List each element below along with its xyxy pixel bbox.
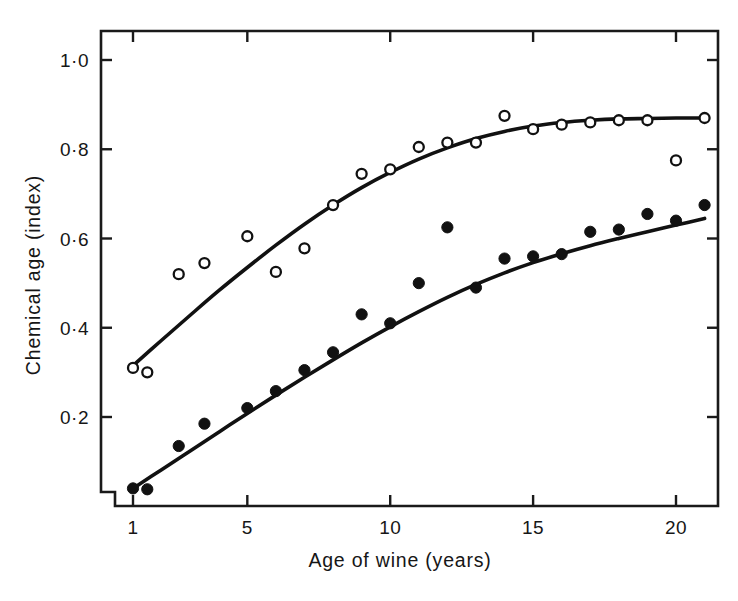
data-point-open [528,124,538,134]
y-tick-labels: 0·20·40·60·81·0 [60,50,89,428]
data-point-filled [613,224,624,235]
data-point-open [700,113,710,123]
x-tick-label: 1 [127,517,138,538]
data-point-filled [270,386,281,397]
data-point-filled [356,309,367,320]
data-point-open [614,115,624,125]
x-axis-title: Age of wine (years) [308,549,491,571]
data-point-open [642,115,652,125]
data-point-filled [199,418,210,429]
x-tick-labels: 15101520 [127,517,687,538]
data-point-filled [585,226,596,237]
x-tick-label: 10 [379,517,401,538]
x-tick-label: 20 [665,517,687,538]
data-point-filled [173,440,184,451]
data-point-open [199,258,209,268]
data-point-open [557,120,567,130]
data-point-filled [442,222,453,233]
data-point-filled [385,318,396,329]
data-point-filled [242,402,253,413]
data-point-filled [470,282,481,293]
data-point-open [357,169,367,179]
x-tick-label: 5 [242,517,253,538]
data-point-filled [413,278,424,289]
data-point-filled [499,253,510,264]
data-point-filled [642,208,653,219]
data-point-open [174,269,184,279]
y-tick-label: 1·0 [60,50,89,71]
y-axis-title: Chemical age (index) [22,175,44,375]
data-point-open [128,363,138,373]
y-tick-label: 0·4 [60,318,89,339]
data-point-filled [699,199,710,210]
data-point-filled [127,483,138,494]
fit-curves [133,118,705,488]
y-tick-label: 0·2 [60,407,89,428]
data-point-open [671,155,681,165]
data-point-filled [528,251,539,262]
plot-frame [101,31,718,506]
data-point-open [471,138,481,148]
data-point-filled [142,484,153,495]
y-tick-label: 0·8 [60,139,89,160]
axis-ticks [101,31,718,506]
figure-container: 15101520 0·20·40·60·81·0 Age of wine (ye… [0,0,738,601]
data-point-filled [670,215,681,226]
scatter-plot: 15101520 0·20·40·60·81·0 Age of wine (ye… [0,0,738,601]
fit-curve-open-circles [133,118,705,366]
data-point-open [242,231,252,241]
data-point-open [414,142,424,152]
data-point-open [299,243,309,253]
x-tick-label: 15 [522,517,544,538]
y-tick-label: 0·6 [60,229,89,250]
data-point-open [328,200,338,210]
data-point-filled [327,347,338,358]
data-point-filled [556,249,567,260]
data-point-open [585,117,595,127]
data-point-open [271,267,281,277]
data-point-open [142,367,152,377]
data-point-open [385,164,395,174]
data-points [127,111,710,495]
data-point-filled [299,365,310,376]
axes-frame [101,31,718,506]
data-point-open [442,138,452,148]
data-point-open [500,111,510,121]
fit-curve-filled-circles [133,218,705,488]
